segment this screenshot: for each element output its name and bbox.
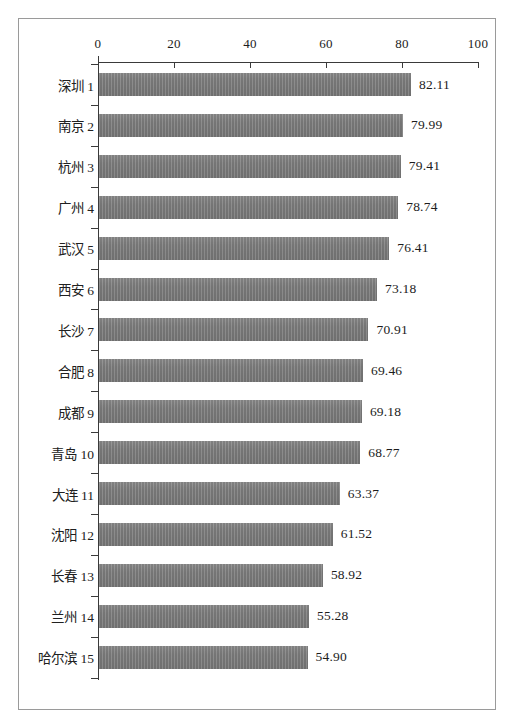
bar-row: 广州 478.74: [0, 196, 514, 219]
x-tick-100: [478, 62, 479, 68]
y-tick: [91, 432, 98, 433]
y-tick: [91, 146, 98, 147]
bar-row: 沈阳 1261.52: [0, 523, 514, 546]
category-label: 兰州 14: [51, 606, 94, 626]
bar-value-label: 78.74: [406, 199, 437, 215]
category-label: 合肥 8: [58, 361, 94, 381]
bar-row: 杭州 379.41: [0, 155, 514, 178]
x-tick-label-20: 20: [167, 36, 181, 52]
bar: [99, 482, 340, 505]
y-tick: [91, 309, 98, 310]
bar-value-label: 68.77: [368, 445, 399, 461]
bar-value-label: 55.28: [317, 608, 348, 624]
bar-row: 深圳 182.11: [0, 73, 514, 96]
bar-row: 合肥 869.46: [0, 359, 514, 382]
category-label: 深圳 1: [58, 75, 94, 95]
y-tick: [91, 678, 98, 679]
y-tick: [91, 637, 98, 638]
y-tick: [91, 105, 98, 106]
figure: 020406080100 深圳 182.11南京 279.99杭州 379.41…: [0, 0, 514, 728]
bar: [99, 564, 323, 587]
y-tick: [91, 350, 98, 351]
category-label: 大连 11: [52, 484, 94, 504]
y-tick: [91, 391, 98, 392]
bar: [99, 278, 377, 301]
x-tick-40: [250, 62, 251, 68]
category-label: 哈尔滨 15: [38, 647, 94, 667]
y-tick: [91, 473, 98, 474]
category-label: 西安 6: [58, 279, 94, 299]
category-label: 广州 4: [58, 197, 94, 217]
bar: [99, 318, 368, 341]
category-label: 青岛 10: [51, 443, 94, 463]
bar-value-label: 54.90: [316, 649, 347, 665]
bar-row: 西安 673.18: [0, 278, 514, 301]
bar-row: 武汉 576.41: [0, 237, 514, 260]
bar-value-label: 58.92: [331, 567, 362, 583]
bar: [99, 237, 389, 260]
x-tick-label-0: 0: [95, 36, 102, 52]
bar-row: 南京 279.99: [0, 114, 514, 137]
bar-value-label: 69.18: [370, 404, 401, 420]
x-tick-80: [402, 62, 403, 68]
y-tick: [91, 596, 98, 597]
bar: [99, 605, 309, 628]
bar-row: 哈尔滨 1554.90: [0, 646, 514, 669]
category-label: 长沙 7: [58, 320, 94, 340]
bar-value-label: 69.46: [371, 363, 402, 379]
x-tick-label-100: 100: [468, 36, 488, 52]
y-tick: [91, 228, 98, 229]
category-label: 沈阳 12: [51, 524, 94, 544]
bar: [99, 441, 360, 464]
bar: [99, 359, 363, 382]
x-tick-60: [326, 62, 327, 68]
bar: [99, 155, 401, 178]
plot-area: 020406080100 深圳 182.11南京 279.99杭州 379.41…: [0, 0, 514, 728]
bar-value-label: 63.37: [348, 486, 379, 502]
bar: [99, 523, 333, 546]
category-label: 杭州 3: [58, 156, 94, 176]
bar: [99, 73, 411, 96]
x-tick-label-40: 40: [243, 36, 257, 52]
bar: [99, 114, 403, 137]
category-label: 南京 2: [58, 115, 94, 135]
bar-row: 青岛 1068.77: [0, 441, 514, 464]
x-tick-0: [98, 56, 99, 68]
y-tick: [91, 64, 98, 65]
y-tick: [91, 514, 98, 515]
bar-row: 成都 969.18: [0, 400, 514, 423]
bar-row: 大连 1163.37: [0, 482, 514, 505]
bar-row: 兰州 1455.28: [0, 605, 514, 628]
y-tick: [91, 269, 98, 270]
bar-row: 长沙 770.91: [0, 318, 514, 341]
bar-value-label: 61.52: [341, 526, 372, 542]
bar: [99, 400, 362, 423]
category-label: 成都 9: [58, 402, 94, 422]
x-axis-line: [98, 62, 478, 63]
category-label: 武汉 5: [58, 238, 94, 258]
bar-value-label: 79.41: [409, 158, 440, 174]
bar-value-label: 79.99: [411, 117, 442, 133]
bar-value-label: 82.11: [419, 77, 450, 93]
bar-row: 长春 1358.92: [0, 564, 514, 587]
bar: [99, 646, 308, 669]
category-label: 长春 13: [51, 565, 94, 585]
bar-value-label: 70.91: [376, 322, 407, 338]
bar-value-label: 76.41: [397, 240, 428, 256]
y-tick: [91, 555, 98, 556]
x-tick-label-60: 60: [319, 36, 333, 52]
bar-value-label: 73.18: [385, 281, 416, 297]
bar: [99, 196, 398, 219]
x-tick-label-80: 80: [395, 36, 409, 52]
x-tick-20: [174, 62, 175, 68]
y-tick: [91, 187, 98, 188]
